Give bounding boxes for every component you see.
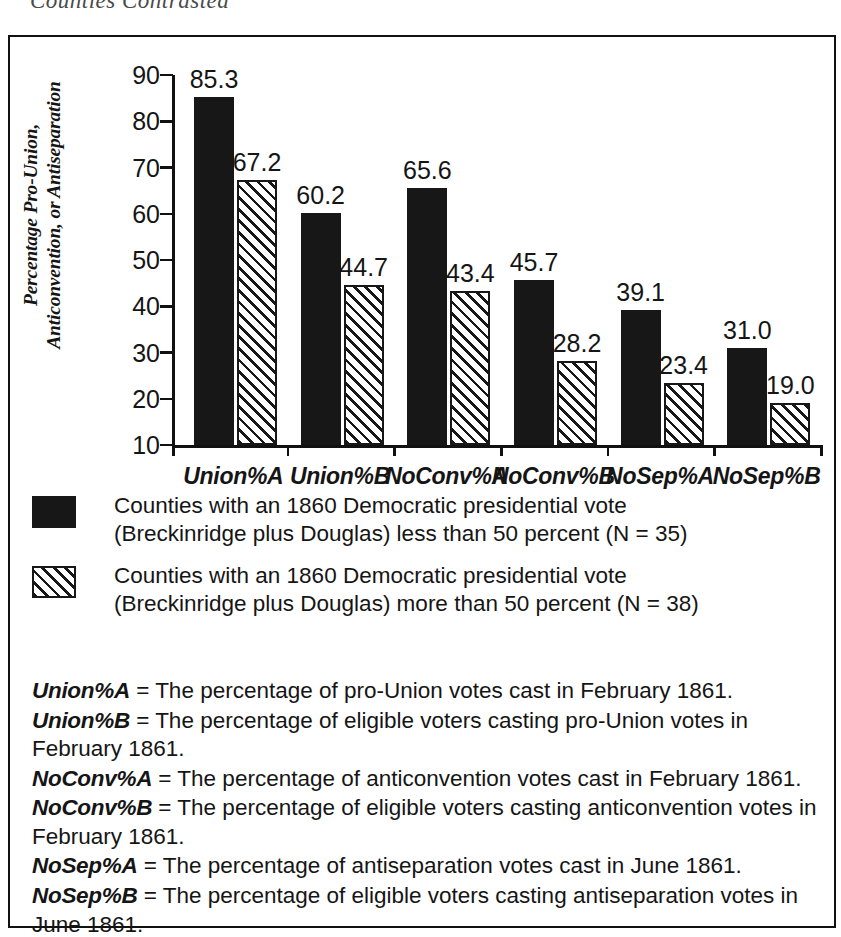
bar-value-label: 28.2 — [553, 329, 602, 358]
bar-value-label: 23.4 — [659, 351, 708, 380]
x-tick-mark — [713, 445, 716, 456]
x-tick-mark — [287, 445, 290, 456]
x-tick-mark — [820, 445, 823, 456]
y-tick-mark — [160, 120, 173, 123]
y-tick-mark — [160, 305, 173, 308]
x-category-label: NoConv%A — [385, 463, 508, 490]
definition-term: Union%A — [32, 678, 130, 703]
x-axis-line — [172, 445, 820, 448]
y-tick-mark — [160, 166, 173, 169]
bar-noconv-b-series2 — [557, 361, 597, 445]
x-tick-mark — [500, 445, 503, 456]
definition-text: = The percentage of eligible voters cast… — [32, 883, 798, 937]
y-tick-label: 30 — [132, 338, 160, 367]
y-tick-mark — [160, 398, 173, 401]
definition-row: NoSep%B = The percentage of eligible vot… — [32, 882, 822, 937]
definition-row: Union%B = The percentage of eligible vot… — [32, 707, 822, 764]
bar-value-label: 44.7 — [339, 253, 388, 282]
definition-text: = The percentage of eligible voters cast… — [32, 708, 748, 762]
bar-union-a-series1 — [194, 97, 234, 445]
y-tick-label: 90 — [132, 61, 160, 90]
legend-label: Counties with an 1860 Democratic preside… — [114, 492, 764, 549]
bar-noconv-a-series1 — [407, 188, 447, 445]
definition-row: Union%A = The percentage of pro-Union vo… — [32, 677, 822, 706]
bar-value-label: 60.2 — [296, 181, 345, 210]
definition-term: NoConv%B — [32, 795, 152, 820]
definition-text: = The percentage of anticonvention votes… — [152, 766, 801, 791]
running-head: Counties Contrasted — [30, 0, 229, 14]
legend-swatch-diagonal-hatch — [32, 566, 76, 598]
bar-value-label: 39.1 — [616, 278, 665, 307]
definition-term: NoConv%A — [32, 766, 152, 791]
y-tick-label: 10 — [132, 431, 160, 460]
legend-item: Counties with an 1860 Democratic preside… — [32, 562, 822, 624]
chart-axes: 908070605040302010 85.367.260.244.765.64… — [180, 75, 820, 445]
bar-value-label: 85.3 — [190, 65, 239, 94]
y-tick-mark — [160, 351, 173, 354]
bar-value-label: 67.2 — [233, 148, 282, 177]
bar-union-b-series1 — [301, 213, 341, 445]
definition-row: NoSep%A = The percentage of antiseparati… — [32, 852, 822, 881]
bar-group: 85.367.260.244.765.643.445.728.239.123.4… — [180, 75, 820, 445]
bar-value-label: 43.4 — [446, 259, 495, 288]
bar-value-label: 65.6 — [403, 156, 452, 185]
figure-page: Counties Contrasted Percentage Pro-Union… — [0, 0, 841, 937]
definition-term: NoSep%B — [32, 883, 137, 908]
definition-row: NoConv%A = The percentage of anticonvent… — [32, 765, 822, 794]
definition-text: = The percentage of antiseparation votes… — [137, 853, 741, 878]
chart-legend: Counties with an 1860 Democratic preside… — [32, 492, 822, 632]
bar-union-b-series2 — [344, 285, 384, 445]
x-category-label: NoSep%A — [606, 463, 714, 490]
bar-noconv-a-series2 — [450, 291, 490, 445]
chart-plot-area: Percentage Pro-Union, Anticonvention, or… — [10, 37, 838, 462]
y-tick-mark — [160, 74, 173, 77]
figure-frame: Percentage Pro-Union, Anticonvention, or… — [8, 35, 836, 928]
legend-item: Counties with an 1860 Democratic preside… — [32, 492, 822, 554]
y-tick-label: 50 — [132, 246, 160, 275]
bar-nosep-a-series2 — [664, 383, 704, 445]
definition-row: NoConv%B = The percentage of eligible vo… — [32, 794, 822, 851]
y-tick-label: 70 — [132, 153, 160, 182]
bar-nosep-b-series2 — [770, 403, 810, 445]
x-category-label: NoConv%B — [492, 463, 615, 490]
x-category-label: Union%A — [183, 463, 283, 490]
y-tick-mark — [160, 259, 173, 262]
bar-value-label: 31.0 — [723, 316, 772, 345]
y-tick-label: 80 — [132, 107, 160, 136]
bar-nosep-b-series1 — [727, 348, 767, 445]
bar-value-label: 45.7 — [510, 248, 559, 277]
bar-noconv-b-series1 — [514, 280, 554, 445]
y-tick-mark — [160, 213, 173, 216]
x-tick-mark — [393, 445, 396, 456]
definition-term: Union%B — [32, 708, 130, 733]
definition-text: = The percentage of pro-Union votes cast… — [130, 678, 733, 703]
y-tick-label: 60 — [132, 199, 160, 228]
y-tick-label: 20 — [132, 384, 160, 413]
x-tick-mark — [607, 445, 610, 456]
x-category-label: Union%B — [290, 463, 390, 490]
x-category-label: NoSep%B — [713, 463, 821, 490]
y-axis-label: Percentage Pro-Union, Anticonvention, or… — [19, 65, 65, 365]
definitions-block: Union%A = The percentage of pro-Union vo… — [32, 677, 832, 937]
y-tick-label: 40 — [132, 292, 160, 321]
bar-union-a-series2 — [237, 180, 277, 445]
definition-term: NoSep%A — [32, 853, 137, 878]
x-tick-mark — [172, 445, 175, 456]
legend-swatch-solid-black — [32, 496, 76, 528]
bar-value-label: 19.0 — [766, 371, 815, 400]
bar-nosep-a-series1 — [621, 310, 661, 445]
legend-label: Counties with an 1860 Democratic preside… — [114, 562, 764, 619]
